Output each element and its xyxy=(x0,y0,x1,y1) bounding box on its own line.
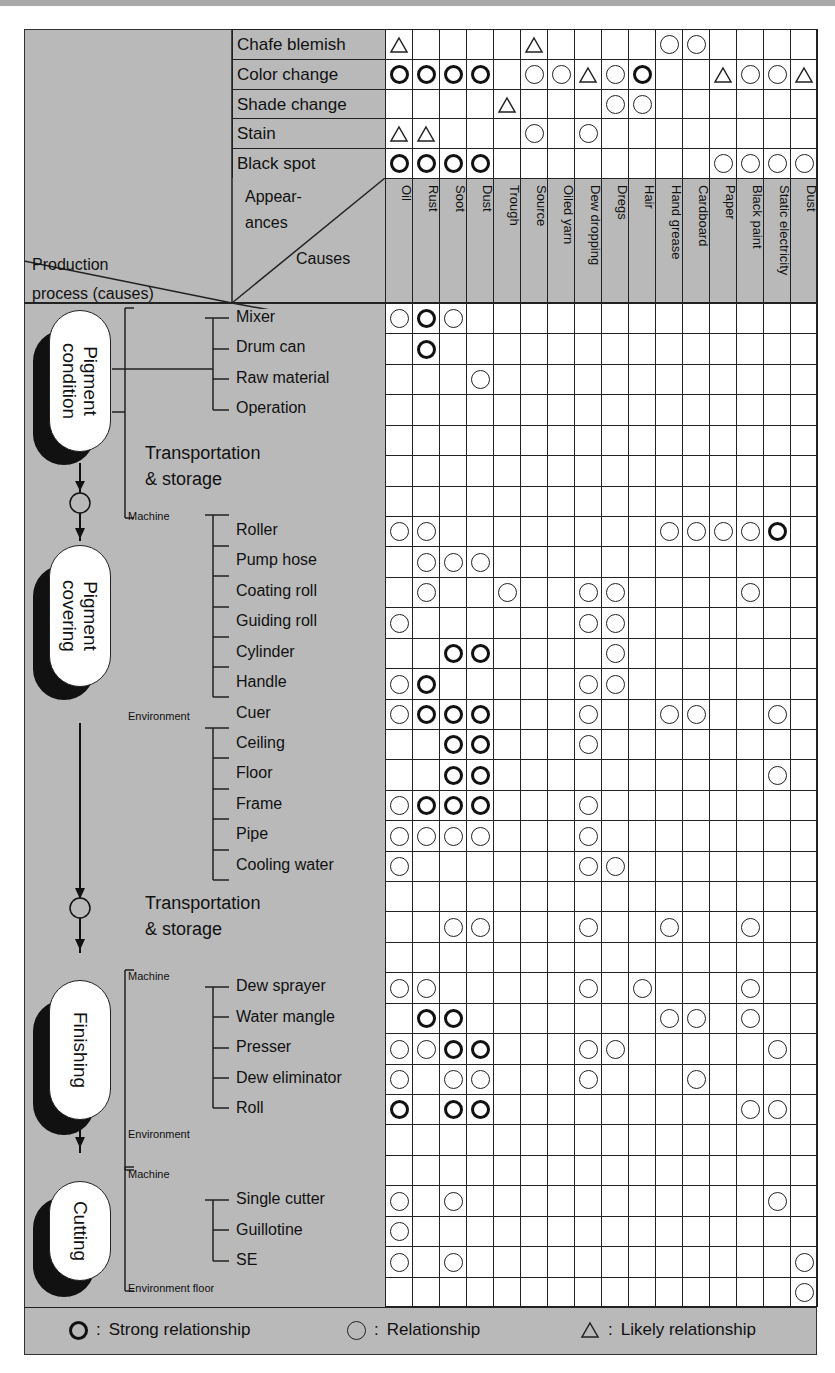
matrix-cell xyxy=(709,394,736,425)
matrix-cell xyxy=(709,942,736,973)
matrix-cell xyxy=(790,425,817,456)
relationship-icon xyxy=(444,1070,463,1089)
matrix-cell xyxy=(385,1246,412,1277)
matrix-cell xyxy=(655,790,682,821)
matrix-cell xyxy=(655,668,682,699)
matrix-cell xyxy=(790,638,817,669)
matrix-cell xyxy=(601,942,628,973)
matrix-cell xyxy=(601,486,628,517)
matrix-cell xyxy=(385,790,412,821)
matrix-cell xyxy=(466,577,493,608)
matrix-cell xyxy=(601,1155,628,1186)
matrix-cell xyxy=(412,364,439,395)
matrix-cell xyxy=(655,546,682,577)
matrix-cell xyxy=(655,699,682,730)
matrix-cell xyxy=(574,1124,601,1155)
matrix-cell xyxy=(628,972,655,1003)
matrix-cell xyxy=(601,546,628,577)
matrix-cell xyxy=(601,759,628,790)
matrix-cell xyxy=(763,89,790,119)
matrix-cell xyxy=(628,516,655,547)
matrix-cell xyxy=(601,333,628,364)
matrix-cell xyxy=(790,1277,817,1308)
matrix-cell xyxy=(493,516,520,547)
likely-relationship-icon xyxy=(580,1321,600,1339)
matrix-cell xyxy=(412,729,439,760)
matrix-cell xyxy=(439,729,466,760)
matrix-cell xyxy=(574,1246,601,1277)
matrix-cell xyxy=(466,638,493,669)
matrix-cell xyxy=(493,394,520,425)
matrix-cell xyxy=(547,577,574,608)
matrix-cell xyxy=(493,759,520,790)
matrix-cell xyxy=(466,394,493,425)
relationship-icon xyxy=(417,522,436,541)
matrix-cell xyxy=(466,303,493,334)
matrix-cell xyxy=(412,1064,439,1095)
matrix-cell xyxy=(682,303,709,334)
relationship-icon xyxy=(768,705,787,724)
matrix-cell xyxy=(385,638,412,669)
matrix-cell xyxy=(520,1033,547,1064)
matrix-cell xyxy=(628,59,655,89)
matrix-cell xyxy=(439,89,466,119)
matrix-cell xyxy=(520,1003,547,1034)
matrix-cell xyxy=(655,516,682,547)
matrix-cell xyxy=(385,577,412,608)
matrix-cell xyxy=(439,394,466,425)
matrix-cell xyxy=(520,1246,547,1277)
matrix-cell xyxy=(547,333,574,364)
matrix-cell xyxy=(439,148,466,178)
relationship-icon xyxy=(390,1040,409,1059)
matrix-cell xyxy=(412,486,439,517)
matrix-cell xyxy=(736,486,763,517)
matrix-cell xyxy=(709,303,736,334)
matrix-cell xyxy=(574,577,601,608)
matrix-cell xyxy=(601,148,628,178)
matrix-cell xyxy=(682,455,709,486)
matrix-cell xyxy=(601,89,628,119)
matrix-cell xyxy=(466,118,493,148)
matrix-cell xyxy=(682,942,709,973)
matrix-cell xyxy=(439,1185,466,1216)
matrix-cell xyxy=(709,820,736,851)
matrix-cell xyxy=(439,303,466,334)
matrix-cell xyxy=(709,638,736,669)
matrix-cell xyxy=(655,1033,682,1064)
matrix-cell xyxy=(520,1185,547,1216)
matrix-cell xyxy=(628,1064,655,1095)
matrix-cell xyxy=(601,790,628,821)
matrix-cell xyxy=(466,699,493,730)
matrix-cell xyxy=(466,1003,493,1034)
matrix-cell xyxy=(736,118,763,148)
matrix-cell xyxy=(682,1094,709,1125)
matrix-cell xyxy=(763,1064,790,1095)
strong-relationship-icon xyxy=(444,154,463,173)
matrix-cell xyxy=(736,394,763,425)
matrix-cell xyxy=(763,1155,790,1186)
matrix-cell xyxy=(763,699,790,730)
matrix-cell xyxy=(412,607,439,638)
matrix-cell xyxy=(763,29,790,59)
matrix-cell xyxy=(466,881,493,912)
matrix-cell xyxy=(736,333,763,364)
matrix-cell xyxy=(439,1003,466,1034)
matrix-cell xyxy=(736,1033,763,1064)
matrix-cell xyxy=(790,455,817,486)
matrix-cell xyxy=(520,118,547,148)
strong-relationship-icon xyxy=(417,796,436,815)
matrix-cell xyxy=(520,425,547,456)
matrix-cell xyxy=(736,1185,763,1216)
matrix-cell xyxy=(790,1185,817,1216)
matrix-cell xyxy=(466,59,493,89)
strong-relationship-icon xyxy=(471,65,490,84)
matrix-cell xyxy=(736,911,763,942)
matrix-cell xyxy=(601,820,628,851)
matrix-cell xyxy=(466,89,493,119)
matrix-cell xyxy=(574,333,601,364)
matrix-cell xyxy=(493,729,520,760)
matrix-cell xyxy=(574,911,601,942)
matrix-cell xyxy=(655,425,682,456)
matrix-cell xyxy=(439,364,466,395)
matrix-cell xyxy=(682,1185,709,1216)
